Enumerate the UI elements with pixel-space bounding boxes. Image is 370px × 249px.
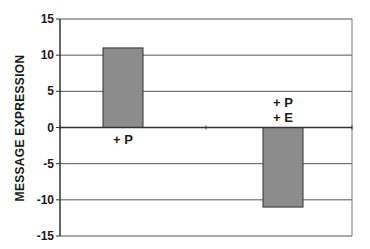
y-axis-label: MESSAGE EXPRESSION xyxy=(13,55,27,202)
y-tick-label: 5 xyxy=(47,84,54,98)
category-label: + P xyxy=(113,132,133,147)
bar-chart: 151050-5-10-15 + P+ P+ E MESSAGE EXPRESS… xyxy=(0,0,370,249)
y-tick-label: 0 xyxy=(47,121,54,135)
category-label: + P xyxy=(273,95,293,110)
y-tick-label: -15 xyxy=(37,229,55,243)
bar xyxy=(263,128,303,208)
bar xyxy=(103,48,143,128)
category-label: + E xyxy=(273,110,293,125)
y-tick-label: -10 xyxy=(37,193,55,207)
y-tick-label: -5 xyxy=(43,157,54,171)
y-axis-ticks: 151050-5-10-15 xyxy=(37,12,60,243)
y-tick-label: 15 xyxy=(41,12,55,26)
y-tick-label: 10 xyxy=(41,48,55,62)
